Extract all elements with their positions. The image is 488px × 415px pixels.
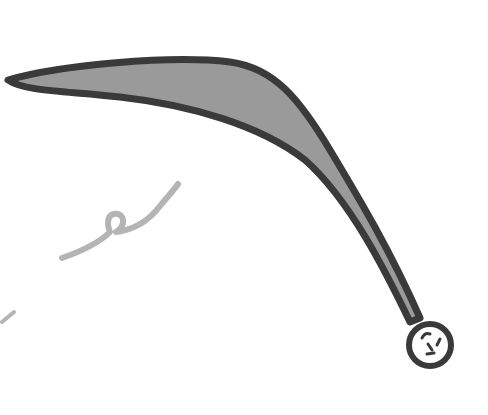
drawing-canvas <box>0 0 488 415</box>
small-stroke <box>2 312 14 322</box>
circle-knob <box>409 324 451 366</box>
boomerang-shape <box>8 60 420 322</box>
squiggle-stroke <box>62 184 178 258</box>
